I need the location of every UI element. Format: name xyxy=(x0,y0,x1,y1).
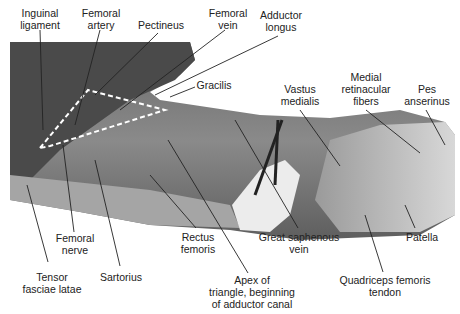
leader-pes-anserinus xyxy=(426,110,445,145)
leader-quadriceps xyxy=(365,215,383,272)
leader-sartorius xyxy=(95,160,120,266)
label-patella: Patella xyxy=(406,231,438,243)
leader-inguinal xyxy=(40,30,43,130)
leader-patella xyxy=(405,205,415,228)
label-pes-anserinus: Pes anserinus xyxy=(404,83,450,107)
label-vastus-medialis: Vastus medialis xyxy=(281,83,320,107)
leader-gracilis xyxy=(170,87,195,97)
leader-vastus-medialis xyxy=(300,110,340,166)
label-femoral-nerve: Femoral nerve xyxy=(56,232,95,256)
leader-femoral-vein xyxy=(120,30,225,110)
label-medial-retinacular-fibers: Medial retinacular fibers xyxy=(341,71,390,107)
label-tensor-fasciae-latae: Tensor fasciae latae xyxy=(23,271,82,295)
leader-rectus-femoris xyxy=(150,175,196,228)
label-pectineus: Pectineus xyxy=(138,19,184,31)
label-femoral-vein: Femoral vein xyxy=(209,7,248,31)
leader-femoral-artery xyxy=(75,30,100,125)
leader-femoral-nerve xyxy=(63,145,74,232)
leader-pectineus xyxy=(95,33,158,95)
label-femoral-artery: Femoral artery xyxy=(82,7,121,31)
label-adductor-longus: Adductor longus xyxy=(260,9,302,33)
label-rectus-femoris: Rectus femoris xyxy=(181,231,215,255)
label-quadriceps-femoris-tendon: Quadriceps femoris tendon xyxy=(339,274,430,298)
leader-lines xyxy=(0,0,460,314)
leader-medial-retinacular xyxy=(366,110,420,153)
label-inguinal-ligament: Inguinal ligament xyxy=(20,7,60,31)
label-sartorius: Sartorius xyxy=(100,271,142,283)
label-gracilis: Gracilis xyxy=(196,79,231,91)
leader-great-saphenous xyxy=(235,120,298,228)
label-great-saphenous-vein: Great saphenous vein xyxy=(259,231,340,255)
leader-tfl xyxy=(27,185,48,262)
label-apex-of-triangle: Apex of triangle, beginning of adductor … xyxy=(209,274,295,310)
